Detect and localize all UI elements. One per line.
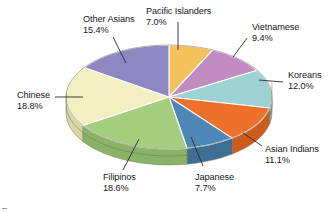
label-japanese-percent: 7.7% [195,183,234,194]
label-koreans-name: Koreans [288,70,322,81]
label-chinese: Chinese 18.8% [17,90,50,112]
leader-vietnamese [233,38,247,57]
label-japanese: Japanese 7.7% [195,172,234,194]
label-pacific-islanders-name: Pacific Islanders [146,6,211,17]
label-vietnamese: Vietnamese 9.4% [252,22,299,44]
label-pacific-islanders: Pacific Islanders 7.0% [146,6,211,28]
label-chinese-percent: 18.8% [17,101,50,112]
corner-registration-mark [2,208,7,209]
label-filipinos: Filipinos 18.6% [103,172,136,194]
label-filipinos-percent: 18.6% [103,183,136,194]
pie-chart-figure: Pacific Islanders 7.0% Vietnamese 9.4% K… [0,0,333,212]
label-other-asians-name: Other Asians [83,14,134,25]
label-asian-indians-name: Asian Indians [265,144,319,155]
label-pacific-islanders-percent: 7.0% [146,17,211,28]
label-vietnamese-percent: 9.4% [252,33,299,44]
label-koreans: Koreans 12.0% [288,70,322,92]
label-vietnamese-name: Vietnamese [252,22,299,33]
label-asian-indians: Asian Indians 11.1% [265,144,319,166]
label-asian-indians-percent: 11.1% [265,155,319,166]
label-other-asians: Other Asians 15.4% [83,14,134,36]
label-japanese-name: Japanese [195,172,234,183]
label-filipinos-name: Filipinos [103,172,136,183]
label-koreans-percent: 12.0% [288,81,322,92]
label-chinese-name: Chinese [17,90,50,101]
label-other-asians-percent: 15.4% [83,25,134,36]
pie-top-face [66,45,272,149]
